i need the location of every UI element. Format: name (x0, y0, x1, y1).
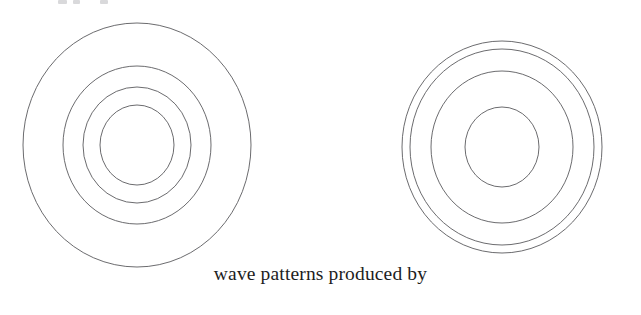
left-wave-pattern-ring-third (63, 66, 211, 224)
left-wave-pattern-ring-inner (100, 105, 174, 185)
right-wave-pattern-ring-third (410, 49, 594, 245)
left-wave-pattern-ring-outer (23, 23, 251, 267)
right-wave-pattern-ring-inner (465, 107, 539, 187)
figure-caption: wave patterns produced by (0, 262, 641, 286)
right-wave-pattern (402, 41, 602, 253)
right-wave-pattern-ring-second (431, 71, 573, 223)
figure-page: wave patterns produced by (0, 0, 641, 315)
right-wave-pattern-ring-outer (402, 41, 602, 253)
left-wave-pattern (23, 23, 251, 267)
left-wave-pattern-ring-second (83, 87, 191, 203)
